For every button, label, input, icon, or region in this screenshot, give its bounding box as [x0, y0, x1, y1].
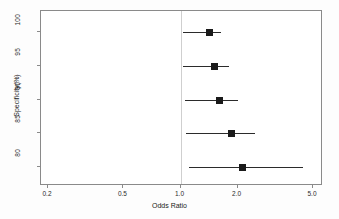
forest-plot-figure: 10095908580 0.20.51.02.05.0 Odds Ratio S… — [0, 0, 339, 219]
confidence-interval-line — [183, 66, 229, 67]
x-tick-mark — [122, 185, 123, 188]
x-tick-label: 1.0 — [175, 190, 184, 197]
plot-panel — [40, 10, 322, 185]
y-tick-label: 80 — [14, 149, 21, 183]
x-tick-mark — [47, 185, 48, 188]
x-tick-mark — [180, 185, 181, 188]
point-estimate-marker — [228, 130, 235, 137]
x-tick-label: 0.5 — [118, 190, 127, 197]
confidence-interval-line — [186, 133, 255, 134]
confidence-interval-line — [183, 32, 221, 33]
point-estimate-marker — [206, 29, 213, 36]
point-estimate-marker — [239, 164, 246, 171]
y-axis-label: Specificity(%) — [13, 45, 20, 145]
y-tick-mark — [37, 65, 40, 66]
y-tick-mark — [37, 99, 40, 100]
x-tick-label: 5.0 — [307, 190, 316, 197]
y-tick-label: 100 — [14, 14, 21, 48]
x-tick-label: 2.0 — [232, 190, 241, 197]
y-tick-mark — [37, 166, 40, 167]
x-tick-mark — [237, 185, 238, 188]
y-tick-mark — [37, 132, 40, 133]
point-estimate-marker — [211, 63, 218, 70]
x-axis-label: Odds Ratio — [0, 202, 339, 209]
confidence-interval-line — [185, 100, 239, 101]
x-tick-label: 0.2 — [42, 190, 51, 197]
reference-line-or-1 — [181, 11, 182, 184]
x-tick-mark — [312, 185, 313, 188]
point-estimate-marker — [216, 97, 223, 104]
y-tick-mark — [37, 31, 40, 32]
